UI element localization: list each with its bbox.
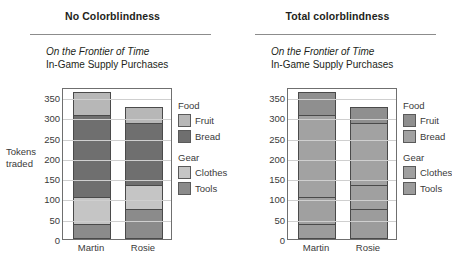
legend-label: Bread	[420, 131, 445, 142]
gridline	[288, 180, 396, 181]
gridline	[288, 140, 396, 141]
gridline	[288, 200, 396, 201]
y-tick-label: 150	[30, 174, 60, 185]
gridline	[63, 140, 171, 141]
bar-martin	[298, 92, 336, 239]
plot-area	[287, 88, 397, 240]
legend-group-title: Gear	[178, 152, 226, 163]
gridline	[288, 119, 396, 120]
legend-swatch-clothes	[178, 166, 191, 179]
bar-segment-tools	[350, 209, 388, 239]
bar-segment-bread	[73, 115, 111, 196]
legend-label: Tools	[420, 183, 442, 194]
legend-swatch-clothes	[403, 166, 416, 179]
chart-title-line1: On the Frontier of Time	[46, 45, 215, 58]
y-tick-label: 300	[30, 113, 60, 124]
bar-segment-clothes	[125, 185, 163, 209]
header-divider	[30, 34, 211, 35]
y-axis-ticks: 050100150200250300350	[26, 88, 60, 240]
panel-total-colorblindness: Total colorblindness On the Frontier of …	[225, 0, 450, 275]
legend-group-title: Food	[178, 100, 226, 111]
y-tick-label: 300	[255, 113, 285, 124]
legend-item-bread[interactable]: Bread	[178, 130, 226, 143]
bar-segment-fruit	[298, 92, 336, 115]
bar-segment-tools	[298, 224, 336, 239]
legend-swatch-fruit	[403, 114, 416, 127]
y-tick-label: 100	[255, 194, 285, 205]
chart-title-line2: In-Game Supply Purchases	[271, 58, 440, 71]
legend-item-fruit[interactable]: Fruit	[178, 114, 226, 127]
bar-segment-fruit	[73, 92, 111, 115]
bar-segment-bread	[298, 115, 336, 196]
gridline	[63, 119, 171, 120]
bar-segment-tools	[73, 224, 111, 239]
legend-swatch-tools	[178, 182, 191, 195]
legend-label: Tools	[195, 183, 217, 194]
bar-segment-bread	[350, 123, 388, 185]
bar-segment-clothes	[350, 185, 388, 209]
legend-item-tools[interactable]: Tools	[403, 182, 451, 195]
legend-item-bread[interactable]: Bread	[403, 130, 451, 143]
bar-rosie	[350, 107, 388, 239]
bar-martin	[73, 92, 111, 239]
y-tick-label: 350	[255, 93, 285, 104]
legend: FoodFruitBreadGearClothesTools	[403, 100, 451, 204]
y-tick-label: 250	[255, 133, 285, 144]
y-tick-label: 250	[30, 133, 60, 144]
x-axis-labels: MartinRosie	[62, 242, 172, 258]
gridline	[288, 99, 396, 100]
legend-swatch-fruit	[178, 114, 191, 127]
gridline	[63, 200, 171, 201]
y-tick-label: 50	[30, 214, 60, 225]
bar-segment-bread	[125, 123, 163, 185]
y-tick-label: 150	[255, 174, 285, 185]
legend: FoodFruitBreadGearClothesTools	[178, 100, 226, 204]
legend-group-food: FoodFruitBread	[178, 100, 226, 143]
gridline	[63, 160, 171, 161]
chart-title: On the Frontier of Time In-Game Supply P…	[46, 45, 215, 71]
legend-label: Fruit	[420, 115, 439, 126]
legend-group-title: Food	[403, 100, 451, 111]
bar-segment-fruit	[125, 107, 163, 123]
x-tick-label-martin: Martin	[303, 242, 329, 253]
y-axis-ticks: 050100150200250300350	[251, 88, 285, 240]
legend-group-gear: GearClothesTools	[178, 152, 226, 195]
x-axis-labels: MartinRosie	[287, 242, 397, 258]
legend-item-clothes[interactable]: Clothes	[178, 166, 226, 179]
y-tick-label: 50	[255, 214, 285, 225]
legend-item-clothes[interactable]: Clothes	[403, 166, 451, 179]
x-tick-label-rosie: Rosie	[131, 242, 155, 253]
bar-segment-fruit	[350, 107, 388, 123]
y-tick-label: 100	[30, 194, 60, 205]
panel-no-colorblindness: No Colorblindness On the Frontier of Tim…	[0, 0, 225, 275]
y-tick-label: 200	[30, 153, 60, 164]
gridline	[288, 160, 396, 161]
y-tick-label: 0	[255, 235, 285, 246]
legend-group-gear: GearClothesTools	[403, 152, 451, 195]
y-tick-label: 350	[30, 93, 60, 104]
legend-label: Fruit	[195, 115, 214, 126]
legend-label: Bread	[195, 131, 220, 142]
legend-swatch-tools	[403, 182, 416, 195]
bar-rosie	[125, 107, 163, 239]
legend-label: Clothes	[420, 167, 452, 178]
legend-group-food: FoodFruitBread	[403, 100, 451, 143]
chart-title-line1: On the Frontier of Time	[271, 45, 440, 58]
gridline	[63, 180, 171, 181]
panel-header-title: Total colorblindness	[225, 10, 450, 22]
x-tick-label-rosie: Rosie	[356, 242, 380, 253]
legend-item-fruit[interactable]: Fruit	[403, 114, 451, 127]
legend-swatch-bread	[178, 130, 191, 143]
y-tick-label: 200	[255, 153, 285, 164]
bar-segment-tools	[125, 209, 163, 239]
legend-item-tools[interactable]: Tools	[178, 182, 226, 195]
legend-swatch-bread	[403, 130, 416, 143]
panel-header-title: No Colorblindness	[0, 10, 225, 22]
plot-area	[62, 88, 172, 240]
gridline	[63, 221, 171, 222]
gridline	[63, 99, 171, 100]
header-divider	[255, 34, 436, 35]
legend-label: Clothes	[195, 167, 227, 178]
chart-title-line2: In-Game Supply Purchases	[46, 58, 215, 71]
x-tick-label-martin: Martin	[78, 242, 104, 253]
